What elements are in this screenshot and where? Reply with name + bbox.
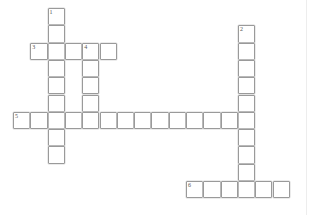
crossword-cell[interactable] [151,112,168,129]
crossword-cell-numbered-4[interactable]: 4 [82,43,99,60]
crossword-clue-number: 6 [188,182,191,189]
crossword-cell[interactable] [238,112,255,129]
crossword-cell[interactable] [48,129,65,146]
crossword-grid[interactable]: 123456 [0,0,325,215]
crossword-clue-number: 3 [32,44,35,51]
crossword-cell[interactable] [100,43,117,60]
crossword-cell[interactable] [134,112,151,129]
crossword-cell-numbered-1[interactable]: 1 [48,8,65,25]
crossword-clue-number: 1 [50,9,53,16]
crossword-cell[interactable] [255,181,272,198]
crossword-cell[interactable] [48,77,65,94]
crossword-cell[interactable] [48,95,65,112]
crossword-cell[interactable] [48,43,65,60]
crossword-cell[interactable] [48,146,65,163]
crossword-cell[interactable] [169,112,186,129]
crossword-cell[interactable] [203,181,220,198]
crossword-cell[interactable] [238,146,255,163]
crossword-cell[interactable] [48,112,65,129]
crossword-cell[interactable] [238,77,255,94]
crossword-cell[interactable] [100,112,117,129]
crossword-cell[interactable] [273,181,290,198]
crossword-clue-number: 4 [84,44,87,51]
crossword-cell[interactable] [221,181,238,198]
crossword-cell[interactable] [117,112,134,129]
crossword-cell-numbered-6[interactable]: 6 [186,181,203,198]
crossword-cell[interactable] [238,95,255,112]
crossword-cell[interactable] [82,77,99,94]
crossword-cell[interactable] [203,112,220,129]
crossword-cell[interactable] [238,43,255,60]
crossword-cell[interactable] [65,112,82,129]
crossword-cell[interactable] [82,95,99,112]
crossword-cell[interactable] [221,112,238,129]
crossword-cell[interactable] [48,60,65,77]
crossword-cell[interactable] [238,60,255,77]
crossword-clue-number: 5 [15,113,18,120]
crossword-cell-numbered-3[interactable]: 3 [30,43,47,60]
crossword-cell[interactable] [65,43,82,60]
crossword-cell[interactable] [186,112,203,129]
crossword-cell[interactable] [30,112,47,129]
crossword-cell[interactable] [238,164,255,181]
crossword-cell[interactable] [238,129,255,146]
crossword-cell-numbered-2[interactable]: 2 [238,25,255,42]
crossword-page: 123456 [0,0,325,215]
crossword-clue-number: 2 [240,26,243,33]
crossword-cell[interactable] [238,181,255,198]
crossword-cell[interactable] [48,25,65,42]
crossword-cell-numbered-5[interactable]: 5 [13,112,30,129]
crossword-cell[interactable] [82,60,99,77]
crossword-cell[interactable] [82,112,99,129]
